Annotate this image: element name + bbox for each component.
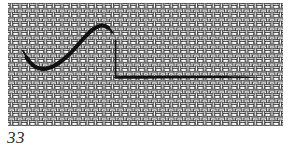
stitch-diagram-figure: 33: [0, 0, 295, 153]
fabric-canvas-texture: [8, 3, 283, 126]
figure-number: 33: [7, 129, 25, 147]
stitch-diagram: [0, 0, 295, 153]
page: 33: [0, 0, 295, 153]
